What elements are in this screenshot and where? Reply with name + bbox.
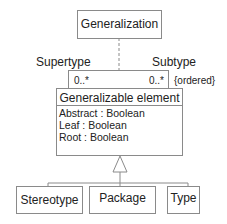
generalizable-element-class-box[interactable]: Generalizable element Abstract : Boolean…	[56, 88, 183, 156]
attribute-root: Root : Boolean	[59, 131, 128, 143]
ordered-constraint: {ordered}	[174, 75, 215, 86]
supertype-role-label: Supertype	[36, 55, 91, 69]
type-class-box[interactable]: Type	[167, 186, 200, 214]
class-divider	[57, 105, 182, 106]
stereotype-class-name: Stereotype	[17, 193, 82, 207]
multiplicity-right: 0..*	[149, 75, 164, 86]
generalization-class-name: Generalization	[78, 17, 161, 31]
stereotype-class-box[interactable]: Stereotype	[16, 186, 83, 214]
generalization-class-box[interactable]: Generalization	[77, 10, 162, 39]
package-class-box[interactable]: Package	[89, 186, 156, 214]
type-class-name: Type	[168, 191, 199, 205]
attribute-abstract: Abstract : Boolean	[59, 107, 145, 119]
generalizable-element-class-name: Generalizable element	[57, 91, 182, 105]
subtype-role-label: Subtype	[152, 55, 196, 69]
attribute-leaf: Leaf : Boolean	[59, 119, 127, 131]
package-class-name: Package	[90, 191, 155, 205]
generalization-triangle-icon	[113, 156, 127, 172]
multiplicity-left: 0..*	[74, 75, 89, 86]
association-link-box: 0..* 0..*	[68, 70, 169, 89]
